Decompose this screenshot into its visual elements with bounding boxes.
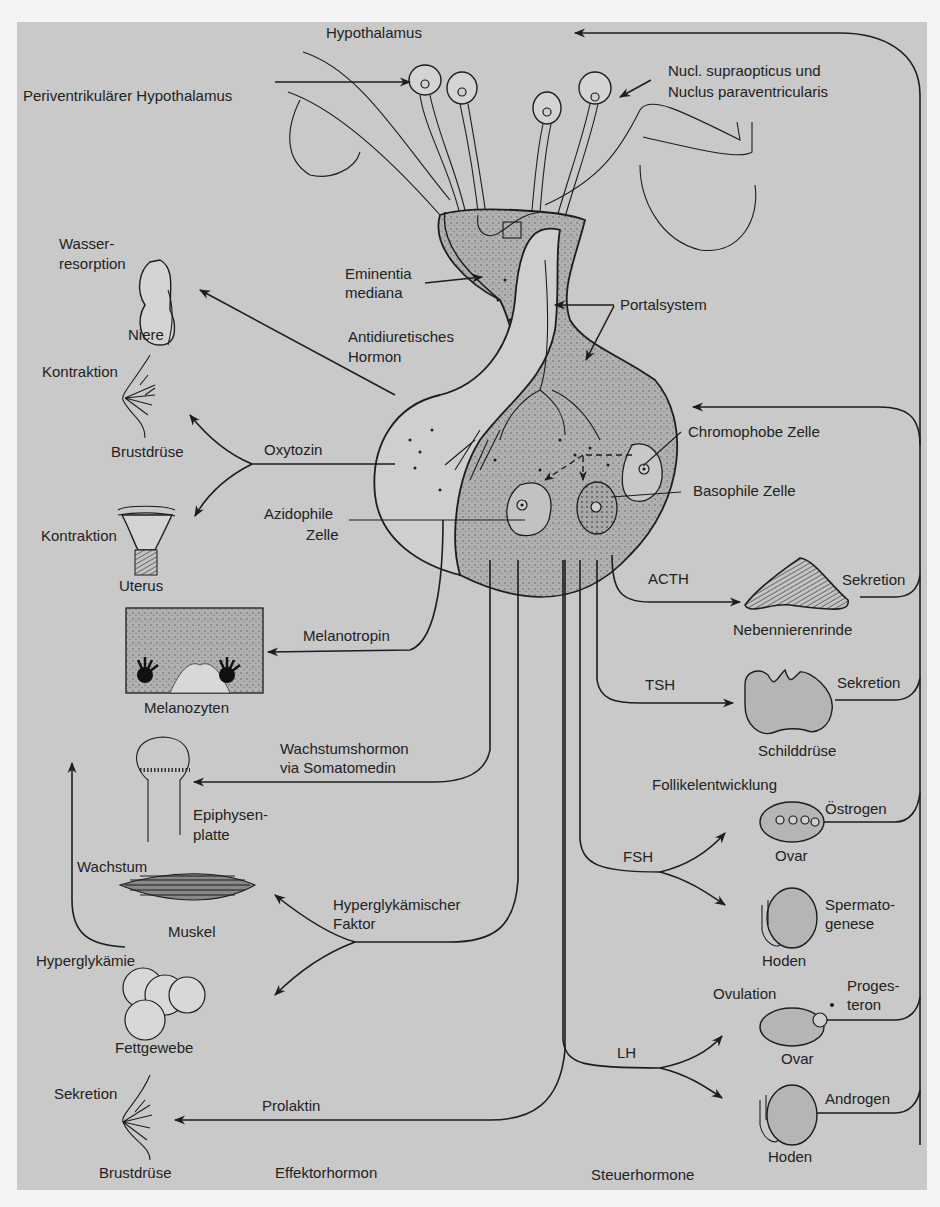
label-azidophile-2: Zelle xyxy=(306,526,339,543)
uterus-icon xyxy=(118,506,175,575)
label-epiphysen-1: Epiphysen- xyxy=(193,806,268,823)
label-wachstumshormon-1: Wachstumshormon xyxy=(280,740,409,757)
label-adh-1: Antidiuretisches xyxy=(348,328,454,345)
label-supraopticus-1: Nucl. supraopticus und xyxy=(668,62,821,79)
label-wasser-1: Wasser- xyxy=(59,235,114,252)
label-sekretion-breast: Sekretion xyxy=(54,1085,117,1102)
label-hyperglyk-faktor-1: Hyperglykämischer xyxy=(333,896,461,913)
label-acth: ACTH xyxy=(648,570,689,587)
label-spermatogenese-2: genese xyxy=(825,915,874,932)
mammary-gland-icon-bottom xyxy=(123,1075,152,1160)
label-kontraktion-breast: Kontraktion xyxy=(42,363,118,380)
label-tsh: TSH xyxy=(645,676,675,693)
label-fsh: FSH xyxy=(623,848,653,865)
label-adh-2: Hormon xyxy=(348,348,401,365)
tropic-pathways xyxy=(563,555,740,1098)
label-eminentia-1: Eminentia xyxy=(345,265,412,282)
label-muskel: Muskel xyxy=(168,923,216,940)
label-melanozyten: Melanozyten xyxy=(144,699,229,716)
fat-tissue-icon xyxy=(123,968,205,1040)
label-fettgewebe: Fettgewebe xyxy=(115,1039,193,1056)
label-lh: LH xyxy=(617,1044,636,1061)
label-wachstum: Wachstum xyxy=(77,858,147,875)
label-basophile: Basophile Zelle xyxy=(693,482,796,499)
testis-icon-2 xyxy=(760,1085,817,1145)
label-hoden-2: Hoden xyxy=(768,1148,812,1165)
label-eminentia-2: mediana xyxy=(345,284,403,301)
mammary-gland-icon-top xyxy=(123,355,155,438)
label-effektorhormon: Effektorhormon xyxy=(275,1164,377,1181)
label-melanotropin: Melanotropin xyxy=(303,627,390,644)
label-hoden-1: Hoden xyxy=(762,952,806,969)
label-sekretion-thyroid: Sekretion xyxy=(837,674,900,691)
label-hypothalamus: Hypothalamus xyxy=(326,24,422,41)
label-portalsystem: Portalsystem xyxy=(620,296,707,313)
label-androgen: Androgen xyxy=(825,1090,890,1107)
label-brustdruese-bottom: Brustdrüse xyxy=(99,1164,172,1181)
label-niere: Niere xyxy=(128,326,164,343)
ovary-icon-1 xyxy=(760,802,824,842)
label-wachstumshormon-2: via Somatomedin xyxy=(280,759,396,776)
label-nebennierenrinde: Nebennierenrinde xyxy=(733,621,852,638)
label-steuerhormone: Steuerhormone xyxy=(591,1166,694,1183)
label-sekretion-adrenal: Sekretion xyxy=(842,571,905,588)
label-periventricular-hypothalamus: Periventrikulärer Hypothalamus xyxy=(23,87,232,104)
label-chromophobe: Chromophobe Zelle xyxy=(688,423,820,440)
label-follikelentwicklung: Follikelentwicklung xyxy=(652,776,777,793)
label-wasser-2: resorption xyxy=(59,255,126,272)
label-azidophile-1: Azidophile xyxy=(264,505,333,522)
label-brustdruese-top: Brustdrüse xyxy=(111,443,184,460)
label-oxytozin: Oxytozin xyxy=(264,441,322,458)
azidophile-cell xyxy=(507,483,551,536)
label-progesteron-1: Proges- xyxy=(847,977,900,994)
label-progesteron-2: teron xyxy=(847,996,881,1013)
pituitary-gland xyxy=(374,210,677,598)
label-prolaktin: Prolaktin xyxy=(262,1097,320,1114)
label-hyperglykaemie: Hyperglykämie xyxy=(36,952,135,969)
label-uterus: Uterus xyxy=(119,577,163,594)
label-ovar-1: Ovar xyxy=(775,847,808,864)
hypothalamus-pituitary-diagram: Hypothalamus Periventrikulärer Hypothala… xyxy=(0,0,940,1207)
label-schilddruese: Schilddrüse xyxy=(758,742,836,759)
label-spermatogenese-1: Spermato- xyxy=(825,896,895,913)
label-epiphysen-2: platte xyxy=(193,826,230,843)
muscle-icon xyxy=(120,874,255,900)
adrenal-cortex-icon xyxy=(745,558,848,609)
label-hyperglyk-faktor-2: Faktor xyxy=(333,915,376,932)
label-oestrogen: Östrogen xyxy=(825,800,887,817)
label-ovar-2: Ovar xyxy=(781,1050,814,1067)
testis-icon-1 xyxy=(762,888,817,948)
bone-epiphysis-icon xyxy=(137,737,190,842)
label-supraopticus-2: Nuclus paraventricularis xyxy=(668,83,828,100)
thyroid-icon xyxy=(745,670,832,733)
label-ovulation: Ovulation xyxy=(713,985,776,1002)
melanocytes-icon xyxy=(126,608,263,693)
ovary-icon-2 xyxy=(760,1003,834,1046)
label-kontraktion-uterus: Kontraktion xyxy=(41,527,117,544)
